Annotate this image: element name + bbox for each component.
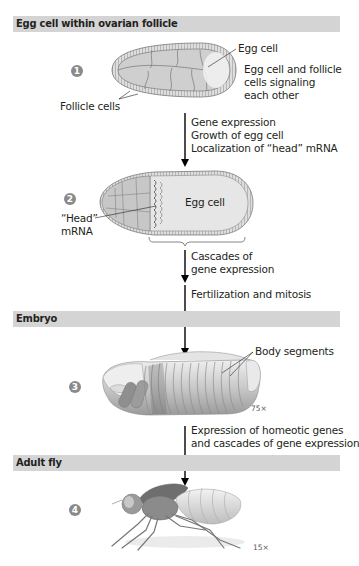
label-egg-cell-2: Egg cell bbox=[185, 196, 225, 209]
section-bar-embryo: Embryo bbox=[13, 311, 340, 327]
section-bar-egg: Egg cell within ovarian follicle bbox=[13, 16, 340, 32]
section-bar-adult: Adult fly bbox=[13, 455, 340, 471]
egg-head-mrna-illustration bbox=[95, 171, 253, 246]
step-marker-3: 3 bbox=[69, 381, 81, 393]
process-1-line2: Growth of egg cell bbox=[191, 129, 283, 142]
magnification-embryo: 75× bbox=[251, 404, 267, 413]
magnification-adult: 15× bbox=[253, 543, 269, 552]
process-3-line1: Fertilization and mitosis bbox=[191, 288, 311, 301]
process-1-line1: Gene expression bbox=[191, 116, 276, 129]
step-marker-4: 4 bbox=[69, 504, 81, 516]
process-1-line3: Localization of “head” mRNA bbox=[191, 142, 338, 155]
label-head-mrna-line1: “Head” bbox=[61, 212, 98, 225]
section-title-embryo: Embryo bbox=[16, 312, 57, 325]
process-2-line1: Cascades of bbox=[191, 250, 252, 263]
embryo-illustration bbox=[103, 352, 261, 415]
step-marker-2: 2 bbox=[64, 193, 76, 205]
process-4-line1: Expression of homeotic genes bbox=[191, 424, 343, 437]
label-body-segments: Body segments bbox=[255, 345, 334, 358]
label-signaling-line2: cells signaling bbox=[244, 76, 315, 89]
process-4-line2: and cascades of gene expression bbox=[191, 437, 359, 450]
egg-follicle-illustration bbox=[112, 43, 236, 99]
step-marker-1: 1 bbox=[71, 65, 83, 77]
label-signaling-line1: Egg cell and follicle bbox=[244, 63, 342, 76]
section-title-adult: Adult fly bbox=[16, 456, 62, 469]
label-head-mrna-line2: mRNA bbox=[61, 225, 93, 238]
label-signaling-line3: each other bbox=[244, 89, 299, 102]
section-title-egg: Egg cell within ovarian follicle bbox=[16, 17, 178, 30]
process-2-line2: gene expression bbox=[191, 263, 274, 276]
label-egg-cell-1: Egg cell bbox=[238, 42, 278, 55]
adult-fly-illustration bbox=[112, 484, 245, 550]
label-follicle-cells: Follicle cells bbox=[60, 100, 120, 113]
